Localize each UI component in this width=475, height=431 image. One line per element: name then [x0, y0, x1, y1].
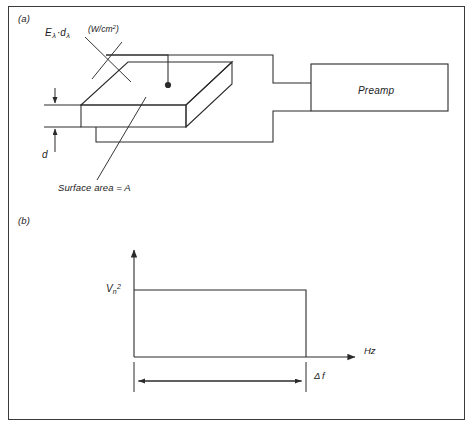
delta-symbol: Δ: [314, 370, 322, 381]
figure-border: [8, 6, 465, 420]
y-axis-symbol: V: [106, 283, 113, 294]
plot-y-axis-label: Vn2: [106, 283, 121, 295]
units-close: ): [116, 24, 119, 34]
panel-label-a: (a): [18, 14, 30, 24]
preamp-label: Preamp: [358, 86, 394, 96]
thickness-label: d: [42, 150, 48, 160]
irradiance-symbol: E: [45, 27, 52, 38]
irradiance-units-label: (W/cm2): [88, 24, 119, 33]
figure-container: (a) (b) Eλ·dλ (W/cm2) d Surface area = A…: [0, 0, 475, 431]
plot-x-axis-label: Hz: [364, 346, 376, 356]
irradiance-label: Eλ·dλ: [45, 28, 71, 40]
units-open: (W/cm: [88, 24, 113, 34]
irradiance-subscript-lambda-2: λ: [66, 31, 71, 40]
y-axis-superscript: 2: [117, 283, 121, 290]
bandwidth-variable: f: [322, 370, 325, 381]
irradiance-differential: ·d: [57, 27, 66, 38]
panel-label-b: (b): [18, 216, 30, 226]
y-axis-subscript: n: [113, 288, 117, 295]
surface-area-label: Surface area = A: [58, 183, 131, 193]
bandwidth-label: Δf: [314, 371, 325, 381]
